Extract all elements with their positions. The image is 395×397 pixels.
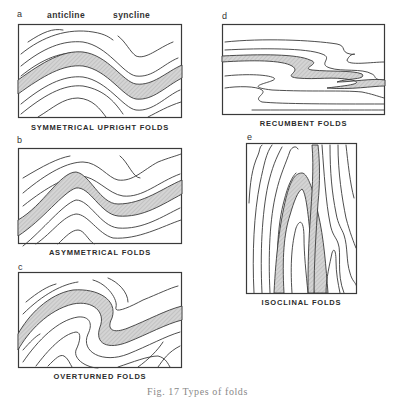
panel-d-caption: RECUMBENT FOLDS xyxy=(222,119,385,128)
panel-b-asymmetrical-folds xyxy=(18,148,182,244)
panel-b-caption: ASYMMETRICAL FOLDS xyxy=(18,248,182,257)
panel-e-shaded-bed xyxy=(274,173,328,293)
panel-c-caption: OVERTURNED FOLDS xyxy=(18,372,182,381)
panel-d-letter: d xyxy=(222,11,227,21)
panel-d-fold-lines xyxy=(222,40,385,110)
panel-b-fold-lines xyxy=(18,154,182,246)
panel-a-fold-lines xyxy=(18,30,182,118)
panel-b-letter: b xyxy=(17,135,22,145)
panel-e-letter: e xyxy=(247,132,252,142)
panel-e-fold-lines xyxy=(249,145,356,293)
panel-c-letter: c xyxy=(18,262,23,272)
anticline-label: anticline xyxy=(47,10,85,20)
panel-c-overturned-folds xyxy=(18,272,182,368)
panel-e-caption: ISOCLINAL FOLDS xyxy=(246,298,357,307)
figure-caption: Fig. 17 Types of folds xyxy=(0,386,395,397)
syncline-label: syncline xyxy=(113,10,150,20)
panel-d-recumbent-folds xyxy=(222,24,385,115)
panel-b-shaded-bed xyxy=(18,172,182,236)
panel-d-shaded-bed xyxy=(222,55,385,89)
panel-e-isoclinal-folds xyxy=(246,143,357,294)
panel-a-letter: a xyxy=(17,9,22,19)
panel-c-fold-lines xyxy=(18,278,182,368)
panel-a-caption: SYMMETRICAL UPRIGHT FOLDS xyxy=(18,123,182,132)
panel-a-symmetrical-upright-folds xyxy=(18,24,182,118)
